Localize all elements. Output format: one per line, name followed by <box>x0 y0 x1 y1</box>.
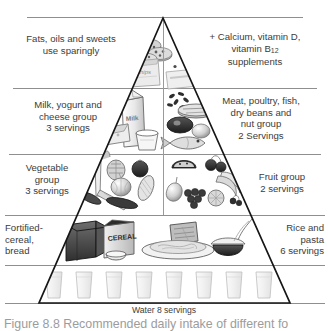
food-art-cherries <box>206 156 227 172</box>
food-art-berries <box>230 196 242 206</box>
food-art-pasta-plate <box>142 241 214 260</box>
food-art-orange <box>208 190 224 206</box>
food-art-liver <box>167 117 193 133</box>
label-water-servings: Water 8 servings <box>0 305 328 315</box>
food-art-water-glasses <box>46 272 272 298</box>
food-art-artichoke <box>107 160 125 180</box>
food-art-cereal-bowl <box>106 251 126 260</box>
food-art-tomato <box>132 160 148 177</box>
food-art-yogurt-cup <box>136 130 158 150</box>
food-art-pear <box>166 177 182 201</box>
label-vegetable-group: Vegetable group 3 servings <box>4 162 90 197</box>
label-fruit-group: Fruit group 2 servings <box>240 171 324 194</box>
label-meat-poultry-fish: Meat, poultry, fish, dry beans and nut g… <box>198 95 324 141</box>
figure-caption: Figure 8.8 Recommended daily intake of d… <box>4 317 328 331</box>
supplements-line-1: + Calcium, vitamin D, <box>210 31 301 42</box>
label-rice-and-pasta: Rice and pasta 6 servings <box>248 222 324 257</box>
label-fortified-cereal-bread: Fortified- cereal, bread <box>5 222 81 257</box>
food-art-watermelon <box>172 161 196 169</box>
supplements-subscript: 12 <box>271 47 279 54</box>
label-fats-oils-sweets: Fats, oils and sweets use sparingly <box>6 33 136 56</box>
supplements-line-3: supplements <box>228 56 282 67</box>
label-milk-yogurt-cheese: Milk, yogurt and cheese group 3 servings <box>4 99 132 134</box>
supplements-line-2: vitamin B <box>231 43 270 54</box>
food-art-corn <box>135 173 157 202</box>
food-art-rice-bowl <box>211 219 252 256</box>
food-art-grapes <box>184 188 205 208</box>
label-supplements: + Calcium, vitamin D,vitamin B12suppleme… <box>186 31 324 68</box>
